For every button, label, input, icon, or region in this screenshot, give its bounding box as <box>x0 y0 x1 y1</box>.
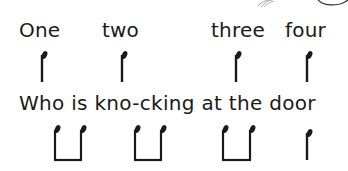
row2-notes <box>0 0 348 171</box>
quaver-pair-icon <box>221 124 256 160</box>
quaver-pair-icon <box>53 124 87 160</box>
quaver-pair-icon <box>133 124 167 160</box>
crotchet-note-icon <box>305 128 313 160</box>
